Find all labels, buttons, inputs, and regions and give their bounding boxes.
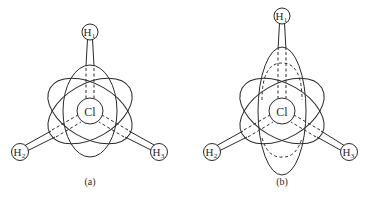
atom-label: Cl [276, 105, 288, 119]
atom-label: H [14, 146, 22, 158]
atom-label: H [206, 146, 214, 158]
atom-h2-b: H 2 [204, 144, 221, 161]
figure-canvas: Cl H 1 H 2 H 3 (a) [0, 0, 370, 207]
atom-label: H [343, 146, 351, 158]
atom-h3-b: H 3 [341, 144, 358, 161]
atom-label: H [153, 146, 161, 158]
atom-cl-a: Cl [77, 98, 103, 124]
panel-caption-b: (b) [276, 176, 288, 188]
atom-label: H [276, 10, 284, 22]
atom-h2-a: H 2 [12, 144, 29, 161]
atom-subscript: 1 [92, 32, 96, 40]
bond-h1-a [86, 39, 94, 98]
atom-subscript: 2 [214, 152, 218, 160]
atom-subscript: 3 [351, 152, 355, 160]
atom-cl-b: Cl [269, 98, 295, 124]
panel-b: Cl H 1 H 2 H 3 (b) [204, 8, 358, 188]
atom-label: H [84, 26, 92, 38]
atom-subscript: 1 [284, 16, 288, 24]
atom-label: Cl [84, 105, 96, 119]
panel-a: Cl H 1 H 2 H 3 (a) [12, 24, 168, 188]
atom-subscript: 3 [161, 152, 165, 160]
atom-h3-a: H 3 [151, 144, 168, 161]
atom-subscript: 2 [22, 152, 26, 160]
atom-h1-b: H 1 [274, 8, 290, 24]
bond-h1-b [278, 23, 286, 98]
panel-caption-a: (a) [84, 176, 95, 188]
atom-h1-a: H 1 [82, 24, 98, 40]
